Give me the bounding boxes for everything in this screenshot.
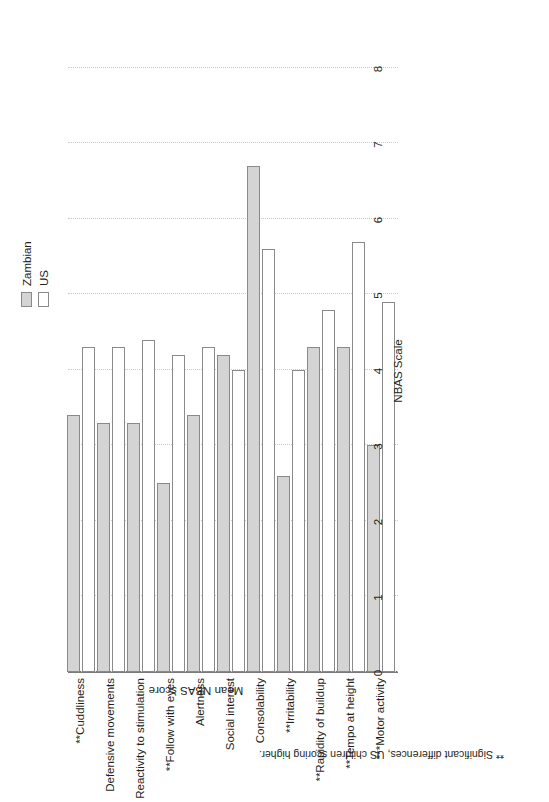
category-label: ***Motor activity: [375, 672, 387, 802]
value-axis-tick: 4: [372, 359, 384, 383]
legend-swatch-zambian: [21, 292, 32, 307]
bar-us: [172, 355, 185, 672]
category-label: **Follow with eyes: [165, 672, 177, 802]
legend-item-zambian: Zambian: [20, 241, 33, 307]
bar-zambian: [157, 483, 170, 672]
chart-legend: Zambian US: [20, 241, 54, 307]
footnote-wrapper: ** Significant differences, US children …: [204, 749, 504, 761]
category-label: Reactivity to stimulation: [135, 672, 147, 802]
bar-zambian: [217, 355, 230, 672]
legend-item-us: US: [37, 241, 50, 307]
category-label: **Rapidity of buildup: [315, 672, 327, 802]
value-axis-tick: 7: [372, 133, 384, 157]
value-axis-tick: 0: [372, 661, 384, 685]
category-label: Defensive movements: [105, 672, 117, 802]
category-label: Social interest: [225, 672, 237, 802]
bar-zambian: [67, 415, 80, 672]
chart-footnote: ** Significant differences, US children …: [204, 749, 504, 761]
category-label: **Tempo at height: [345, 672, 357, 802]
chart-canvas: Zambian US Mean NBAS score **CuddlinessD…: [40, 19, 510, 759]
bar-zambian: [337, 347, 350, 672]
bar-zambian: [127, 423, 140, 672]
bar-zambian: [187, 415, 200, 672]
bar-us: [82, 347, 95, 672]
bar-us: [142, 340, 155, 672]
category-label: Alertness: [195, 672, 207, 802]
value-axis-tick: 8: [372, 57, 384, 81]
bar-zambian: [247, 166, 260, 672]
category-axis-title: NBAS Scale: [392, 69, 404, 673]
bar-zambian: [277, 476, 290, 672]
legend-label-us: US: [37, 270, 49, 286]
value-axis-tick: 5: [372, 284, 384, 308]
bar-us: [112, 347, 125, 672]
bar-zambian: [367, 446, 380, 673]
value-axis-tick: 3: [372, 435, 384, 459]
legend-swatch-us: [38, 292, 49, 307]
category-label: **Irritability: [285, 672, 297, 802]
bar-zambian: [307, 347, 320, 672]
bar-us: [232, 370, 245, 672]
category-label: Consolability: [255, 672, 267, 802]
value-axis-tick: 1: [372, 586, 384, 610]
value-axis-tick: 2: [372, 510, 384, 534]
bar-zambian: [97, 423, 110, 672]
value-axis-tick: 6: [372, 208, 384, 232]
legend-label-zambian: Zambian: [20, 241, 32, 286]
bar-us: [202, 347, 215, 672]
category-label: **Cuddliness: [75, 672, 87, 802]
bar-us: [262, 249, 275, 672]
bar-us: [292, 370, 305, 672]
bar-us: [352, 242, 365, 672]
bar-us: [322, 310, 335, 672]
plot-area: **CuddlinessDefensive movementsReactivit…: [68, 69, 398, 673]
